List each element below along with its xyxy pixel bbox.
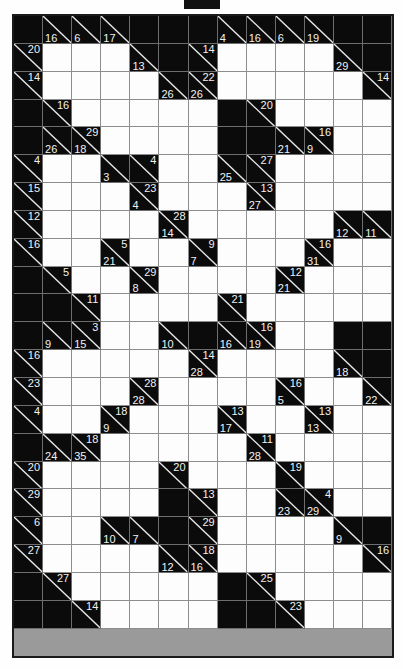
puzzle-cell[interactable] (334, 489, 363, 517)
puzzle-cell[interactable] (363, 100, 392, 128)
puzzle-cell[interactable] (43, 211, 72, 239)
puzzle-cell[interactable] (189, 573, 218, 601)
puzzle-cell[interactable] (43, 350, 72, 378)
puzzle-cell[interactable] (305, 294, 334, 322)
puzzle-cell[interactable] (130, 545, 159, 573)
puzzle-cell[interactable] (363, 601, 392, 629)
puzzle-cell[interactable] (305, 434, 334, 462)
puzzle-cell[interactable] (305, 545, 334, 573)
puzzle-cell[interactable] (334, 462, 363, 490)
puzzle-cell[interactable] (43, 406, 72, 434)
puzzle-cell[interactable] (43, 239, 72, 267)
puzzle-cell[interactable] (218, 378, 247, 406)
puzzle-cell[interactable] (305, 267, 334, 295)
puzzle-cell[interactable] (159, 601, 188, 629)
puzzle-cell[interactable] (363, 155, 392, 183)
puzzle-cell[interactable] (305, 72, 334, 100)
puzzle-cell[interactable] (218, 462, 247, 490)
puzzle-cell[interactable] (101, 489, 130, 517)
puzzle-cell[interactable] (363, 127, 392, 155)
puzzle-cell[interactable] (334, 267, 363, 295)
puzzle-cell[interactable] (305, 350, 334, 378)
puzzle-cell[interactable] (276, 183, 305, 211)
puzzle-cell[interactable] (247, 294, 276, 322)
puzzle-cell[interactable] (189, 211, 218, 239)
puzzle-cell[interactable] (72, 462, 101, 490)
puzzle-cell[interactable] (43, 489, 72, 517)
puzzle-cell[interactable] (72, 489, 101, 517)
puzzle-cell[interactable] (218, 517, 247, 545)
puzzle-cell[interactable] (276, 211, 305, 239)
puzzle-cell[interactable] (130, 601, 159, 629)
puzzle-cell[interactable] (72, 44, 101, 72)
puzzle-cell[interactable] (363, 489, 392, 517)
puzzle-cell[interactable] (159, 378, 188, 406)
puzzle-cell[interactable] (247, 211, 276, 239)
puzzle-cell[interactable] (218, 350, 247, 378)
puzzle-cell[interactable] (305, 462, 334, 490)
puzzle-cell[interactable] (218, 434, 247, 462)
puzzle-cell[interactable] (101, 44, 130, 72)
puzzle-cell[interactable] (72, 573, 101, 601)
puzzle-cell[interactable] (72, 406, 101, 434)
puzzle-cell[interactable] (101, 211, 130, 239)
puzzle-cell[interactable] (218, 183, 247, 211)
puzzle-cell[interactable] (218, 72, 247, 100)
puzzle-cell[interactable] (159, 434, 188, 462)
puzzle-cell[interactable] (101, 183, 130, 211)
puzzle-cell[interactable] (159, 294, 188, 322)
puzzle-cell[interactable] (334, 183, 363, 211)
puzzle-cell[interactable] (363, 183, 392, 211)
puzzle-cell[interactable] (247, 267, 276, 295)
puzzle-cell[interactable] (43, 517, 72, 545)
puzzle-cell[interactable] (305, 211, 334, 239)
puzzle-cell[interactable] (43, 44, 72, 72)
puzzle-cell[interactable] (43, 378, 72, 406)
puzzle-cell[interactable] (101, 267, 130, 295)
puzzle-cell[interactable] (247, 545, 276, 573)
puzzle-cell[interactable] (130, 350, 159, 378)
puzzle-cell[interactable] (72, 545, 101, 573)
puzzle-cell[interactable] (43, 72, 72, 100)
puzzle-cell[interactable] (305, 378, 334, 406)
puzzle-cell[interactable] (159, 155, 188, 183)
puzzle-cell[interactable] (218, 239, 247, 267)
puzzle-cell[interactable] (72, 155, 101, 183)
puzzle-cell[interactable] (130, 462, 159, 490)
puzzle-cell[interactable] (189, 155, 218, 183)
puzzle-cell[interactable] (334, 127, 363, 155)
puzzle-cell[interactable] (218, 545, 247, 573)
puzzle-cell[interactable] (72, 517, 101, 545)
puzzle-cell[interactable] (334, 72, 363, 100)
puzzle-cell[interactable] (130, 322, 159, 350)
puzzle-cell[interactable] (276, 100, 305, 128)
puzzle-cell[interactable] (247, 489, 276, 517)
puzzle-cell[interactable] (72, 72, 101, 100)
puzzle-cell[interactable] (130, 489, 159, 517)
puzzle-cell[interactable] (276, 294, 305, 322)
puzzle-cell[interactable] (130, 294, 159, 322)
puzzle-cell[interactable] (130, 406, 159, 434)
puzzle-cell[interactable] (72, 239, 101, 267)
puzzle-cell[interactable] (130, 239, 159, 267)
puzzle-cell[interactable] (101, 350, 130, 378)
puzzle-cell[interactable] (276, 517, 305, 545)
puzzle-cell[interactable] (72, 183, 101, 211)
puzzle-cell[interactable] (101, 100, 130, 128)
puzzle-cell[interactable] (159, 267, 188, 295)
puzzle-cell[interactable] (72, 350, 101, 378)
puzzle-cell[interactable] (218, 489, 247, 517)
puzzle-cell[interactable] (305, 44, 334, 72)
puzzle-cell[interactable] (101, 434, 130, 462)
puzzle-cell[interactable] (334, 378, 363, 406)
puzzle-cell[interactable] (218, 211, 247, 239)
puzzle-cell[interactable] (247, 378, 276, 406)
kakuro-grid[interactable]: 1661741661920131429142622261416202629182… (12, 14, 394, 658)
puzzle-cell[interactable] (305, 517, 334, 545)
puzzle-cell[interactable] (159, 183, 188, 211)
puzzle-cell[interactable] (305, 322, 334, 350)
puzzle-cell[interactable] (72, 100, 101, 128)
puzzle-cell[interactable] (101, 573, 130, 601)
puzzle-cell[interactable] (43, 155, 72, 183)
puzzle-cell[interactable] (101, 601, 130, 629)
